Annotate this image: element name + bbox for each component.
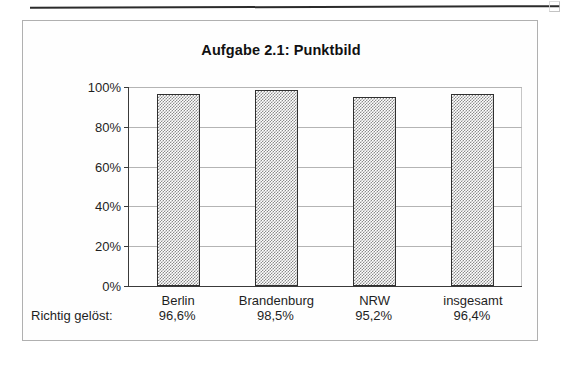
chart-title: Aufgabe 2.1: Punktbild [23,42,539,58]
bar-nrw[interactable] [353,97,396,286]
y-tick-mark [124,87,129,88]
annotation-label: Richtig gelöst: [31,308,113,323]
plot-area: 0%20%40%60%80%100% BerlinBrandenburgNRWi… [128,87,522,287]
annotation-value-nrw: 95,2% [355,308,392,323]
x-axis-label-insgesamt: insgesamt [443,293,502,308]
x-axis-label-nrw: NRW [359,293,390,308]
y-tick-mark [124,246,129,247]
annotation-value-brandenburg: 98,5% [257,308,294,323]
y-tick-mark [124,206,129,207]
y-tick-mark [124,286,129,287]
annotation-row: Richtig gelöst: 96,6%98,5%95,2%96,4% [23,308,539,332]
y-tick-mark [124,127,129,128]
y-axis-label: 20% [95,239,121,254]
annotation-value-berlin: 96,6% [159,308,196,323]
x-axis-label-brandenburg: Brandenburg [239,293,314,308]
bar-brandenburg[interactable] [255,90,298,286]
y-axis-label: 0% [102,279,121,294]
y-axis-label: 60% [95,159,121,174]
y-axis-label: 40% [95,199,121,214]
bar-berlin[interactable] [157,94,200,286]
plot-right-edge [521,87,522,286]
scan-corner-artifact-icon [549,1,560,12]
y-tick-mark [124,167,129,168]
x-axis-label-berlin: Berlin [162,293,195,308]
chart-frame: Aufgabe 2.1: Punktbild 0%20%40%60%80%100… [22,20,538,341]
y-axis-label: 100% [88,80,121,95]
bar-insgesamt[interactable] [451,94,494,286]
annotation-value-insgesamt: 96,4% [453,308,490,323]
gridline-100 [129,87,522,88]
page-top-rule [30,5,560,9]
y-axis-label: 80% [95,119,121,134]
